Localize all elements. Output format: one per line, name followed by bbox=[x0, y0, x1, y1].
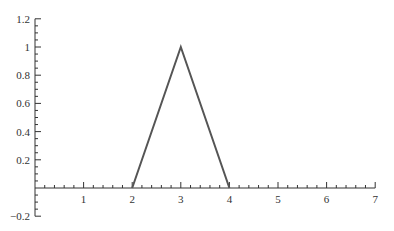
x-tick-label: 6 bbox=[324, 193, 330, 205]
y-tick-label: 1.2 bbox=[16, 13, 30, 25]
y-tick-label: 1 bbox=[25, 41, 31, 53]
tick-labels: 1234567−0.20.20.40.60.811.2 bbox=[10, 13, 378, 222]
y-tick-label: −0.2 bbox=[10, 210, 30, 222]
x-tick-label: 3 bbox=[178, 193, 184, 205]
line-chart: 1234567−0.20.20.40.60.811.2 bbox=[0, 0, 394, 231]
x-tick-label: 7 bbox=[372, 193, 378, 205]
x-tick-label: 4 bbox=[227, 193, 233, 205]
y-tick-label: 0.8 bbox=[16, 69, 30, 81]
x-tick-label: 5 bbox=[275, 193, 281, 205]
y-tick-label: 0.4 bbox=[16, 126, 30, 138]
series-line-triangle bbox=[132, 47, 229, 188]
x-tick-label: 1 bbox=[81, 193, 87, 205]
y-tick-label: 0.2 bbox=[16, 154, 30, 166]
y-tick-label: 0.6 bbox=[16, 97, 30, 109]
data-series bbox=[132, 47, 229, 188]
x-tick-label: 2 bbox=[129, 193, 135, 205]
